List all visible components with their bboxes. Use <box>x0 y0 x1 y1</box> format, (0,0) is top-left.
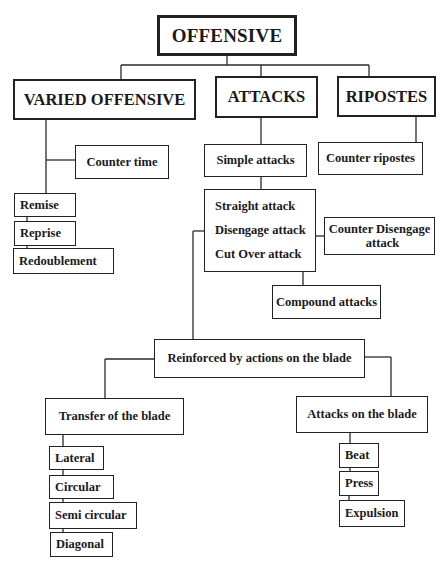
node-reprise: Reprise <box>14 221 76 246</box>
node-label: Transfer of the blade <box>59 409 171 424</box>
node-label: Reprise <box>20 226 61 241</box>
node-label: Reinforced by actions on the blade <box>167 351 351 366</box>
node-simple-attack-types: Straight attack Disengage attack Cut Ove… <box>204 189 316 272</box>
node-attacks-on-blade: Attacks on the blade <box>296 396 428 433</box>
node-straight-attack: Straight attack <box>215 199 295 214</box>
node-label: Beat <box>345 448 369 463</box>
node-press: Press <box>339 471 379 496</box>
node-cut-over-attack: Cut Over attack <box>215 247 302 262</box>
node-diagonal: Diagonal <box>50 532 113 557</box>
node-remise: Remise <box>14 193 76 217</box>
node-label-line1: Counter Disengage <box>329 222 431 236</box>
node-label: VARIED OFFENSIVE <box>24 90 186 110</box>
node-label: Counter time <box>87 155 158 170</box>
node-label: Semi circular <box>55 508 127 523</box>
node-reinforced-by-actions-on-blade: Reinforced by actions on the blade <box>154 339 365 378</box>
node-label: RIPOSTES <box>346 87 428 107</box>
node-label: Compound attacks <box>276 295 377 310</box>
node-counter-disengage-attack: Counter Disengage attack <box>324 217 435 255</box>
node-label: Simple attacks <box>216 153 294 168</box>
node-lateral: Lateral <box>49 446 104 470</box>
node-label: Counter ripostes <box>326 151 415 166</box>
node-label: Remise <box>20 198 59 213</box>
node-circular: Circular <box>49 475 114 499</box>
node-label: Circular <box>55 480 101 495</box>
node-ripostes: RIPOSTES <box>337 76 436 117</box>
node-label: Expulsion <box>345 506 399 521</box>
node-offensive: OFFENSIVE <box>157 15 297 56</box>
node-counter-time: Counter time <box>75 145 169 179</box>
node-redoublement: Redoublement <box>13 248 114 274</box>
node-label: Lateral <box>55 451 95 466</box>
node-simple-attacks: Simple attacks <box>204 144 307 177</box>
node-counter-ripostes: Counter ripostes <box>318 142 423 175</box>
node-label: Redoublement <box>19 254 97 269</box>
node-label-line2: attack <box>360 236 399 250</box>
node-transfer-of-blade: Transfer of the blade <box>45 398 184 435</box>
node-attacks: ATTACKS <box>215 76 318 118</box>
node-label: OFFENSIVE <box>172 25 283 47</box>
node-expulsion: Expulsion <box>339 500 405 527</box>
node-semi-circular: Semi circular <box>49 502 137 529</box>
node-label: Diagonal <box>56 537 104 552</box>
node-beat: Beat <box>339 443 379 468</box>
node-label: ATTACKS <box>228 87 305 107</box>
node-label: Press <box>345 476 373 491</box>
node-varied-offensive: VARIED OFFENSIVE <box>13 79 196 120</box>
node-label: Attacks on the blade <box>307 407 416 422</box>
node-disengage-attack: Disengage attack <box>215 223 306 238</box>
node-compound-attacks: Compound attacks <box>272 285 381 319</box>
